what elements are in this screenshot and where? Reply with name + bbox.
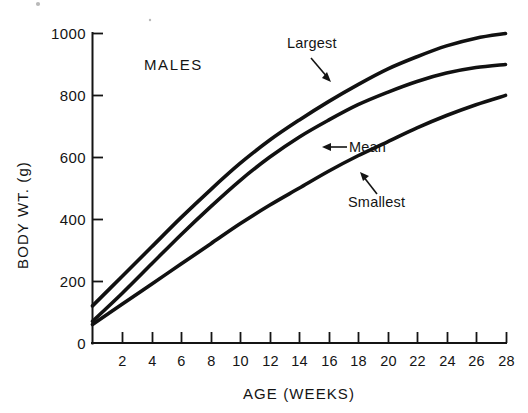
annotation-arrowhead-mean xyxy=(322,143,331,151)
x-tick-label: 16 xyxy=(321,353,338,369)
y-tick-label: 0 xyxy=(77,335,86,352)
panel-label-males: MALES xyxy=(144,56,203,73)
annotation-label-largest: Largest xyxy=(287,35,337,51)
x-tick-label: 2 xyxy=(118,353,126,369)
y-tick-label: 200 xyxy=(60,273,86,290)
curve-smallest xyxy=(93,95,506,324)
y-axis-title: BODY WT. (g) xyxy=(14,161,31,269)
data-curves xyxy=(93,34,506,325)
x-tick-label: 6 xyxy=(177,353,185,369)
annotation-arrowhead-smallest xyxy=(360,172,369,181)
x-tick-label: 26 xyxy=(468,353,485,369)
y-tick-label: 1000 xyxy=(51,25,86,42)
annotation-largest: Largest xyxy=(287,35,337,82)
annotation-label-smallest: Smallest xyxy=(348,194,405,210)
x-tick-label: 12 xyxy=(262,353,279,369)
annotation-smallest: Smallest xyxy=(348,172,405,210)
annotation-label-mean: Mean xyxy=(349,139,386,155)
y-tick-label: 600 xyxy=(60,149,86,166)
x-tick-label: 24 xyxy=(439,353,456,369)
x-tick-label: 28 xyxy=(498,353,515,369)
x-axis-tick-labels: 246810121416182022242628 xyxy=(118,353,515,369)
x-tick-label: 10 xyxy=(232,353,249,369)
y-axis-tick-labels: 1000 800 600 400 200 0 xyxy=(51,25,86,352)
y-axis-ticks xyxy=(93,34,104,282)
x-tick-label: 14 xyxy=(291,353,308,369)
x-tick-label: 8 xyxy=(207,353,215,369)
y-tick-label: 400 xyxy=(60,211,86,228)
annotation-mean: Mean xyxy=(322,139,386,155)
x-tick-label: 18 xyxy=(350,353,367,369)
x-axis-ticks xyxy=(123,332,507,343)
y-tick-label: 800 xyxy=(60,87,86,104)
chart-canvas: 1000 800 600 400 200 0 BODY WT. (g) 2468… xyxy=(0,0,528,413)
scan-speck xyxy=(149,19,151,21)
growth-curve-figure: 1000 800 600 400 200 0 BODY WT. (g) 2468… xyxy=(0,0,528,413)
scan-speck xyxy=(36,2,40,6)
x-tick-label: 4 xyxy=(148,353,156,369)
x-tick-label: 20 xyxy=(380,353,397,369)
x-tick-label: 22 xyxy=(409,353,426,369)
x-axis-title: AGE (WEEKS) xyxy=(243,385,355,402)
